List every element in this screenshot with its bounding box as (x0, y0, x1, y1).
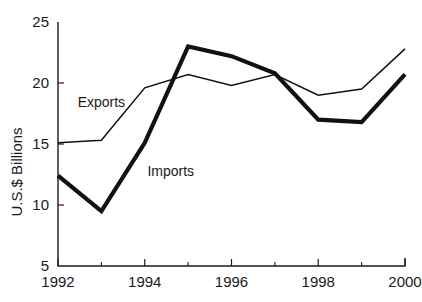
series-label-exports: Exports (78, 94, 125, 110)
plot-frame (58, 22, 405, 266)
y-tick-label: 5 (41, 257, 49, 274)
y-tick-label: 10 (32, 196, 49, 213)
x-axis-ticks (58, 259, 405, 266)
y-tick-label: 25 (32, 13, 49, 30)
line-chart: 510152025 19921994199619982000 U.S.$ Bil… (0, 0, 422, 302)
x-tick-label: 1998 (302, 273, 335, 290)
y-tick-label: 20 (32, 74, 49, 91)
x-tick-label: 1996 (215, 273, 248, 290)
axis-lines (58, 22, 405, 266)
y-axis-title: U.S.$ Billions (8, 127, 25, 216)
y-tick-label: 15 (32, 135, 49, 152)
x-tick-label: 1994 (128, 273, 161, 290)
chart-container: 510152025 19921994199619982000 U.S.$ Bil… (0, 0, 422, 302)
x-tick-label: 1992 (41, 273, 74, 290)
series-label-imports: Imports (147, 163, 194, 179)
x-axis-tick-labels: 19921994199619982000 (41, 273, 421, 290)
x-tick-label: 2000 (388, 273, 421, 290)
y-axis-ticks (58, 83, 64, 205)
y-axis-tick-labels: 510152025 (32, 13, 49, 274)
